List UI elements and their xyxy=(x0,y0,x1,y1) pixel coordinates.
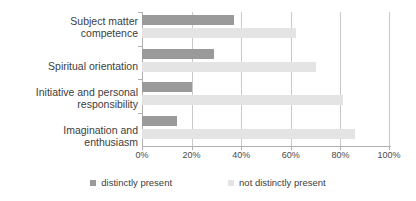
bar-distinctly-present xyxy=(142,49,214,59)
category-label-line-1: Subject matter xyxy=(0,15,138,27)
bar-not-distinctly-present xyxy=(142,62,316,72)
x-tick-label-0: 0% xyxy=(135,150,148,161)
bar-not-distinctly-present xyxy=(142,95,343,105)
category-label-imagination-and-enthusiasm: Imagination and enthusiasm xyxy=(0,124,138,148)
x-tick-label-100: 100% xyxy=(377,150,400,161)
bar-not-distinctly-present xyxy=(142,28,296,38)
category-label-line-2: responsibility xyxy=(0,98,138,110)
x-axis: 0% 20% 40% 60% 80% 100% xyxy=(142,146,390,162)
bar-group-subject-matter-competence xyxy=(142,12,390,46)
category-label-spiritual-orientation: Spiritual orientation xyxy=(0,60,138,72)
bar-distinctly-present xyxy=(142,116,177,126)
legend-label: distinctly present xyxy=(101,177,172,189)
category-label-subject-matter-competence: Subject matter competence xyxy=(0,15,138,39)
bar-group-imagination-and-enthusiasm xyxy=(142,113,390,147)
category-tick xyxy=(138,46,142,47)
category-label-line-2: enthusiasm xyxy=(0,136,138,148)
bar-not-distinctly-present xyxy=(142,129,355,139)
bar-group-spiritual-orientation xyxy=(142,46,390,80)
category-tick xyxy=(138,79,142,80)
x-tick-label-80: 80% xyxy=(331,150,349,161)
legend-swatch-icon xyxy=(228,180,234,186)
legend-label: not distinctly present xyxy=(239,177,326,189)
category-tick xyxy=(138,113,142,114)
bar-distinctly-present xyxy=(142,15,234,25)
legend-item-not-distinctly-present: not distinctly present xyxy=(228,177,326,189)
bar-chart: Subject matter competence Spiritual orie… xyxy=(0,0,416,201)
category-label-line-1: Spiritual orientation xyxy=(0,60,138,72)
bar-distinctly-present xyxy=(142,82,192,92)
x-tick-label-40: 40% xyxy=(232,150,250,161)
legend-item-distinctly-present: distinctly present xyxy=(90,177,172,189)
chart-legend: distinctly present not distinctly presen… xyxy=(0,174,416,192)
category-label-line-1: Imagination and xyxy=(0,124,138,136)
legend-swatch-icon xyxy=(90,180,96,186)
category-tick xyxy=(138,12,142,13)
x-tick-label-60: 60% xyxy=(282,150,300,161)
category-label-line-1: Initiative and personal xyxy=(0,86,138,98)
bar-group-initiative-and-personal-responsibility xyxy=(142,79,390,113)
category-axis-labels: Subject matter competence Spiritual orie… xyxy=(0,12,138,146)
category-label-line-2: competence xyxy=(0,27,138,39)
plot-area xyxy=(142,12,390,146)
x-tick-label-20: 20% xyxy=(183,150,201,161)
category-label-initiative-and-personal-responsibility: Initiative and personal responsibility xyxy=(0,86,138,110)
